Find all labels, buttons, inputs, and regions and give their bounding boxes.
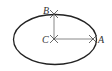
point-label-a: A <box>98 35 104 45</box>
point-label-b: B <box>43 6 49 16</box>
ellipse-diagram <box>0 0 112 71</box>
point-label-c: C <box>42 35 49 45</box>
